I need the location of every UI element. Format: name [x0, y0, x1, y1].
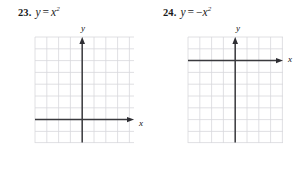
x-axis [35, 117, 134, 122]
exercise-23-number: 23. [18, 7, 31, 18]
exercise-24-grid-svg [188, 37, 283, 143]
exercise-24-lhs: y [180, 6, 185, 18]
exercise-24-number: 24. [163, 7, 176, 18]
exercise-23-y-axis-label: y [81, 23, 85, 33]
exercise-23-x-axis-label: x [139, 118, 143, 128]
exercise-23-prompt: 23.y=x2 [18, 6, 60, 19]
exercise-item-23: 23.y=x2 [0, 0, 150, 177]
exercise-24-prompt: 24.y=−x2 [163, 6, 211, 19]
exercise-24-y-axis-label: y [236, 23, 240, 33]
exercise-23-operator: = [43, 6, 50, 18]
exercise-item-24: 24.y=−x2 [150, 0, 300, 177]
grid-lines [35, 37, 134, 143]
exercise-23-lhs: y [35, 6, 40, 18]
exercise-24-equation: y=−x2 [180, 6, 211, 18]
exercise-23-equation: y=x2 [35, 6, 59, 18]
exercise-23-grid-svg [35, 37, 134, 143]
exercise-24-graph: y x [188, 37, 283, 143]
y-axis [79, 37, 85, 143]
exercise-23-exponent: 2 [56, 5, 60, 13]
y-axis [232, 37, 238, 143]
exercise-24-x-axis-label: x [288, 54, 292, 64]
worksheet-page: 23.y=x2 [0, 0, 300, 177]
exercise-24-exponent: 2 [208, 5, 212, 13]
exercise-23-graph: y x [35, 37, 134, 143]
exercise-24-operator: = [188, 6, 195, 18]
